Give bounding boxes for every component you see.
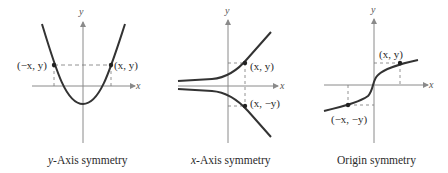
point-lower-label: (x, −y) bbox=[250, 97, 280, 110]
y-axis-label: y bbox=[224, 5, 230, 16]
y-axis-label: y bbox=[370, 4, 376, 15]
x-axis-label: x bbox=[135, 80, 141, 91]
point-upper bbox=[243, 61, 247, 65]
caption: Origin symmetry bbox=[337, 154, 416, 167]
point-upper-label: (x, y) bbox=[379, 48, 403, 61]
point-right bbox=[109, 63, 113, 67]
point-lower bbox=[346, 103, 350, 107]
point-lower-label: (−x, −y) bbox=[331, 113, 368, 126]
point-upper-label: (x, y) bbox=[250, 60, 274, 73]
caption: y-Axis symmetry bbox=[47, 154, 128, 167]
x-axis-label: x bbox=[279, 80, 285, 91]
point-left-label: (−x, y) bbox=[17, 59, 47, 72]
symmetry-diagram: x y (−x, y) (x, y) y-Axis symmetry x y (… bbox=[0, 0, 448, 173]
panel-x-axis-symmetry: x y (x, y) (x, −y) x-Axis symmetry bbox=[178, 5, 285, 167]
point-upper bbox=[398, 61, 402, 65]
point-left bbox=[52, 63, 56, 67]
panel-y-axis-symmetry: x y (−x, y) (x, y) y-Axis symmetry bbox=[17, 6, 141, 167]
upper-curve bbox=[178, 32, 271, 81]
point-lower bbox=[243, 104, 247, 108]
x-axis-label: x bbox=[428, 79, 434, 90]
panel-origin-symmetry: x y (x, y) (−x, −y) Origin symmetry bbox=[324, 4, 434, 167]
y-axis-label: y bbox=[78, 6, 84, 17]
point-right-label: (x, y) bbox=[114, 59, 138, 72]
caption: x-Axis symmetry bbox=[190, 154, 271, 167]
